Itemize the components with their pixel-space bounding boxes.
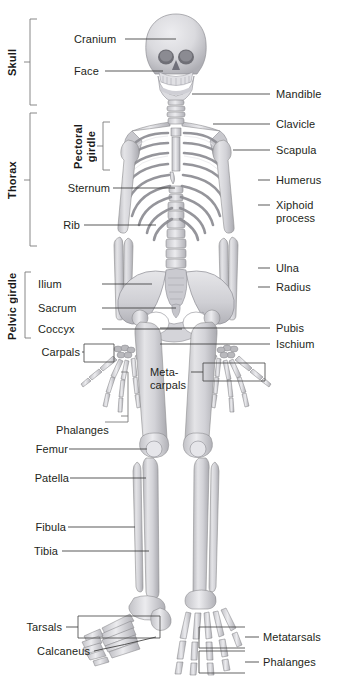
right-foot <box>175 590 242 675</box>
group-label-pectoral-girdle: Pectoral girdle <box>62 123 106 171</box>
label-cranium: Cranium <box>74 33 116 46</box>
group-label-skull: Skull <box>6 44 18 80</box>
label-ischium: Ischium <box>276 338 315 351</box>
label-calcaneus: Calcaneus <box>14 645 90 658</box>
label-ilium: Ilium <box>38 278 62 291</box>
label-radius: Radius <box>276 281 311 294</box>
label-sternum: Sternum <box>54 182 110 195</box>
label-ulna: Ulna <box>276 262 299 275</box>
label-carpals: Carpals <box>22 346 80 359</box>
label-clavicle: Clavicle <box>276 118 315 131</box>
label-tarsals: Tarsals <box>14 621 62 634</box>
thorax-group <box>124 118 228 268</box>
label-phalanges-foot: Phalanges <box>263 656 316 669</box>
label-femur: Femur <box>22 443 68 456</box>
skull-group <box>146 14 206 117</box>
label-scapula: Scapula <box>276 144 316 157</box>
label-sacrum: Sacrum <box>38 302 77 315</box>
label-coccyx: Coccyx <box>38 323 75 336</box>
left-foot <box>82 596 171 666</box>
label-xiphoid-line1: Xiphoid <box>276 199 315 212</box>
label-tibia: Tibia <box>22 545 58 558</box>
label-humerus: Humerus <box>276 174 321 187</box>
label-metacarpals-line1: Meta- <box>150 366 186 379</box>
label-patella: Patella <box>22 472 69 485</box>
label-mandible: Mandible <box>276 88 321 101</box>
group-label-pectoral-girdle-line1: Pectoral <box>72 124 84 169</box>
label-metacarpals-line2: carpals <box>150 379 186 392</box>
label-metatarsals: Metatarsals <box>263 631 321 644</box>
group-label-thorax: Thorax <box>6 157 18 203</box>
label-face: Face <box>74 65 99 78</box>
label-metacarpals: Meta- carpals <box>150 366 186 391</box>
group-label-pectoral-girdle-line2: girdle <box>85 131 97 162</box>
label-phalanges-hand: Phalanges <box>56 424 109 437</box>
label-xiphoid-process: Xiphoid process <box>276 199 315 224</box>
label-xiphoid-line2: process <box>276 212 315 225</box>
label-fibula: Fibula <box>22 521 66 534</box>
label-rib: Rib <box>54 219 80 232</box>
label-pubis: Pubis <box>276 322 304 335</box>
skeleton-diagram: Skull Thorax Pelvic girdle Pectoral gird… <box>0 0 352 684</box>
group-label-pelvic-girdle: Pelvic girdle <box>6 272 18 340</box>
